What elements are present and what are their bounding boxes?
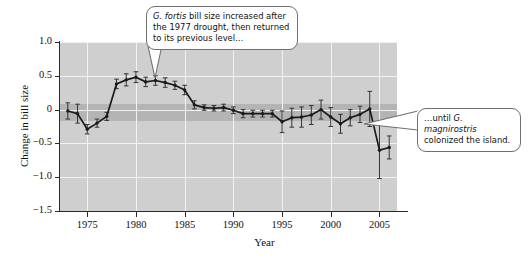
x-tick-label: 1980 — [116, 219, 156, 230]
y-tick-mark — [55, 211, 60, 212]
callout-right-line2: colonized the island. — [424, 135, 510, 145]
callout-left-line2: the 1977 drought, then returned — [153, 22, 289, 32]
x-tick-mark — [87, 212, 88, 217]
y-axis-line — [59, 41, 60, 212]
callout-right: …until G. magnirostris colonized the isl… — [417, 108, 521, 152]
y-tick-mark — [55, 110, 60, 111]
callout-right-tail — [362, 108, 422, 138]
gridline-horizontal — [60, 110, 397, 111]
y-tick-mark — [55, 76, 60, 77]
bill-size-figure: 1.00.50−0.5−1.0−1.5 19751980198519901995… — [0, 0, 529, 262]
callout-left-line3: to its previous level… — [153, 33, 243, 43]
gridline-vertical — [233, 42, 234, 211]
species-fortis: G. fortis — [153, 11, 186, 21]
x-tick-label: 1990 — [213, 219, 253, 230]
gridline-vertical — [331, 42, 332, 211]
gridline-vertical — [136, 42, 137, 211]
x-tick-label: 2000 — [311, 219, 351, 230]
x-axis-title: Year — [0, 236, 529, 248]
y-tick-mark — [55, 42, 60, 43]
x-tick-mark — [136, 212, 137, 217]
x-tick-mark — [282, 212, 283, 217]
x-tick-label: 1975 — [67, 219, 107, 230]
x-tick-label: 2005 — [359, 219, 399, 230]
gridline-horizontal — [60, 177, 397, 178]
x-tick-label: 1985 — [165, 219, 205, 230]
gridline-horizontal — [60, 143, 397, 144]
y-axis-title: Change in bill size — [18, 56, 30, 196]
x-tick-mark — [185, 212, 186, 217]
callout-left-line1: G. fortis bill size increased after — [153, 11, 286, 21]
y-tick-label: −1.5 — [18, 205, 52, 215]
callout-right-line1: …until G. magnirostris — [424, 113, 477, 134]
y-tick-mark — [55, 143, 60, 144]
confidence-band — [60, 104, 397, 121]
x-tick-mark — [331, 212, 332, 217]
plot-area — [60, 42, 397, 211]
y-tick-mark — [55, 177, 60, 178]
y-tick-label: 1.0 — [18, 36, 52, 46]
gridline-horizontal — [60, 76, 397, 77]
x-tick-label: 1995 — [262, 219, 302, 230]
gridline-vertical — [282, 42, 283, 211]
callout-left: G. fortis bill size increased after the … — [146, 6, 298, 50]
callout-left-tail — [140, 44, 200, 86]
x-tick-mark — [233, 212, 234, 217]
gridline-vertical — [87, 42, 88, 211]
x-tick-mark — [379, 212, 380, 217]
